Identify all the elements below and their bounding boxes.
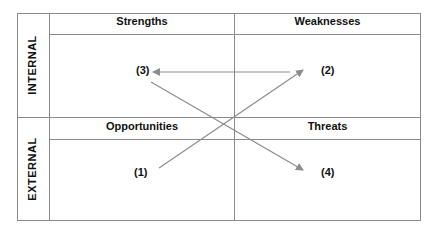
arrows-layer (0, 0, 437, 233)
arrow-1-to-2 (159, 70, 303, 168)
arrow-3-to-4 (151, 82, 303, 170)
